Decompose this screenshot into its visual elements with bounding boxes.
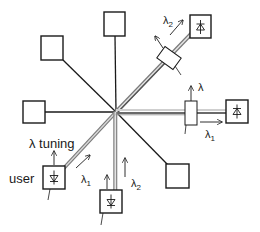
label-lambda2-top-right: λ2 <box>163 14 174 29</box>
label-user: user <box>9 171 35 186</box>
receiver-top-right[interactable] <box>190 15 211 38</box>
arrow-lambda1-user <box>76 155 90 168</box>
lead-user <box>48 189 50 200</box>
terminal-box-bottom-right[interactable] <box>166 164 189 188</box>
link-top-left <box>63 60 116 112</box>
terminal-box-top-left[interactable] <box>41 36 63 60</box>
terminal-box-top[interactable] <box>104 12 125 36</box>
filter-top-right-tail <box>175 66 181 75</box>
network-diagram: λ2 λ λ1 λ tuning user λ1 λ2 <box>0 0 260 232</box>
lead-bottom <box>101 213 103 225</box>
receiver-right[interactable] <box>226 100 248 123</box>
transmitter-bottom[interactable] <box>100 190 122 213</box>
link-bottom-right <box>116 112 168 165</box>
terminal-box-left[interactable] <box>23 101 45 123</box>
label-lambda2-bottom: λ2 <box>131 177 142 192</box>
transmitter-user[interactable] <box>43 166 65 189</box>
label-lambda-tuning: λ tuning <box>29 136 75 151</box>
filter-right-tail <box>185 125 186 134</box>
link-top <box>115 36 116 112</box>
label-lambda1-user: λ1 <box>81 173 92 188</box>
label-lambda-right: λ <box>198 81 204 93</box>
filter-right[interactable] <box>185 101 197 125</box>
label-lambda1-right: λ1 <box>205 128 216 143</box>
arrow-filter-top-right-out <box>155 36 163 48</box>
